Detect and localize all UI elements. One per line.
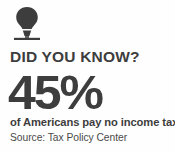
did-you-know-infographic: DID YOU KNOW? 45% of Americans pay no in…	[0, 0, 175, 152]
stat-description: of Americans pay no income tax.	[10, 116, 175, 129]
source-attribution: Source: Tax Policy Center	[10, 131, 127, 144]
lightbulb-icon	[14, 6, 40, 40]
stat-value: 45%	[8, 68, 102, 117]
page-title: DID YOU KNOW?	[10, 47, 140, 66]
